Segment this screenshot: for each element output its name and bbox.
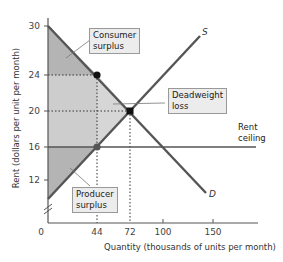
producer-surplus-callout: Producer surplus — [72, 187, 118, 213]
producer-leader — [70, 168, 90, 186]
y-tick-20: 20 — [29, 106, 41, 116]
demand-label: D — [209, 189, 216, 199]
y-tick-24: 24 — [29, 70, 41, 80]
y-tick-16: 16 — [29, 142, 41, 152]
rent-ceiling-chart: 30 24 20 16 12 0 44 72 100 150 Quantity … — [0, 0, 283, 262]
point-44-24 — [93, 71, 100, 78]
x-tick-44: 44 — [91, 227, 103, 237]
supply-label: S — [202, 27, 208, 37]
x-tick-0: 0 — [38, 227, 44, 237]
consumer-surplus-callout: Consumer surplus — [89, 28, 140, 54]
point-44-16 — [93, 143, 100, 150]
x-tick-72: 72 — [124, 227, 135, 237]
y-axis-label: Rent (dollars per unit per month) — [11, 48, 21, 188]
x-axis-label: Quantity (thousands of units per month) — [104, 242, 276, 252]
x-tick-100: 100 — [154, 227, 171, 237]
y-tick-30: 30 — [29, 21, 41, 31]
y-tick-12: 12 — [29, 175, 40, 185]
x-tick-150: 150 — [204, 227, 221, 237]
rent-ceiling-label: Rent ceiling — [238, 122, 266, 144]
equilibrium-point — [127, 108, 134, 115]
deadweight-loss-callout: Deadweight loss — [168, 88, 227, 114]
